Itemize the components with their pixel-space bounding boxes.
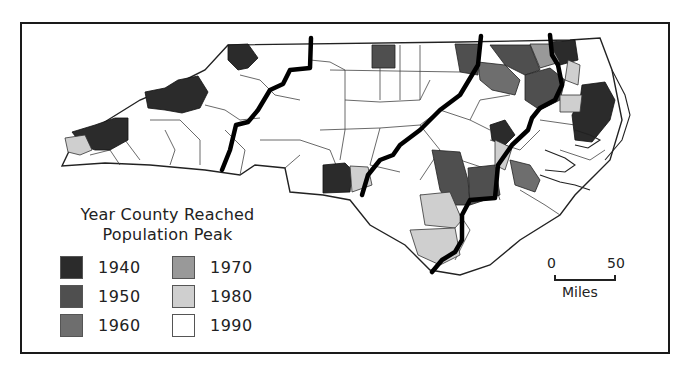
scale-bar-line bbox=[554, 275, 616, 281]
scale-end-label: 50 bbox=[607, 255, 625, 271]
legend-item-1990: 1990 bbox=[172, 313, 272, 337]
legend-swatch bbox=[172, 256, 195, 279]
legend-swatch bbox=[172, 314, 195, 337]
legend-label: 1940 bbox=[98, 258, 141, 277]
legend-label: 1970 bbox=[210, 258, 253, 277]
legend-item-1950: 1950 bbox=[60, 284, 172, 308]
legend-title-line1: Year County Reached bbox=[60, 205, 275, 225]
legend: Year County Reached Population Peak 1940… bbox=[60, 205, 275, 337]
legend-label: 1950 bbox=[98, 287, 141, 306]
scale-bar: 0 50 Miles bbox=[547, 255, 657, 305]
legend-grid: 1940 1970 1950 1980 1960 1990 bbox=[60, 255, 275, 337]
legend-item-1960: 1960 bbox=[60, 313, 172, 337]
legend-label: 1960 bbox=[98, 316, 141, 335]
legend-swatch bbox=[60, 285, 83, 308]
legend-label: 1980 bbox=[210, 287, 253, 306]
scale-start-label: 0 bbox=[547, 255, 556, 271]
legend-item-1980: 1980 bbox=[172, 284, 272, 308]
legend-item-1940: 1940 bbox=[60, 255, 172, 279]
legend-label: 1990 bbox=[210, 316, 253, 335]
legend-title-line2: Population Peak bbox=[60, 225, 275, 245]
scale-unit-label: Miles bbox=[562, 284, 598, 300]
legend-swatch bbox=[172, 285, 195, 308]
legend-item-1970: 1970 bbox=[172, 255, 272, 279]
legend-swatch bbox=[60, 256, 83, 279]
legend-swatch bbox=[60, 314, 83, 337]
